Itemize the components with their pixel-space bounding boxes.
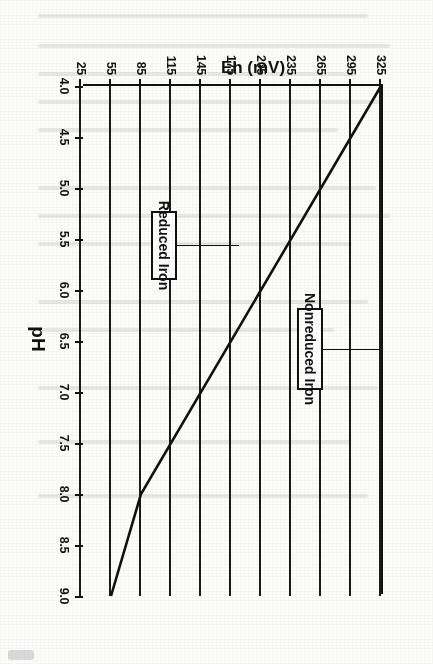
x-axis-tick-label: 8.0 (57, 486, 71, 502)
x-axis-tick-label: 7.5 (57, 435, 71, 451)
y-axis-tick (79, 79, 81, 86)
x-axis-tick-label: 9.0 (57, 588, 71, 604)
y-axis-tick-label: 25 (74, 62, 88, 75)
x-axis-tick-label: 6.5 (57, 333, 71, 349)
scan-smudge (8, 650, 34, 660)
x-axis-tick (75, 596, 83, 598)
callout-nonreduced-iron: Nonreduced Iron (297, 308, 323, 390)
y-axis-tick-label: 85 (134, 62, 148, 75)
x-axis-tick-label: 5.5 (57, 231, 71, 247)
y-axis-tick (109, 79, 111, 86)
ghost-text-line (38, 14, 368, 18)
eh-ph-boundary-line (111, 86, 381, 596)
y-axis-tick (289, 79, 291, 86)
y-axis-tick-label: 55 (104, 62, 118, 75)
callout-reduced-iron-label: Reduced Iron (156, 201, 172, 290)
y-axis-title: Eh (mV) (173, 58, 333, 78)
plot-area: 325 295 265 235 205 175 145 115 85 55 25… (83, 84, 383, 594)
x-axis-tick-label: 4.5 (57, 129, 71, 145)
y-axis-tick (229, 79, 231, 86)
y-axis-tick (319, 79, 321, 86)
callout-reduced-iron: Reduced Iron (151, 211, 177, 280)
callout-leader-line-nonreduced (323, 349, 381, 350)
y-axis-tick (169, 79, 171, 86)
y-axis-tick-label: 295 (344, 55, 358, 75)
y-axis-tick (259, 79, 261, 86)
y-axis-tick (199, 79, 201, 86)
x-axis-tick-label: 6.0 (57, 282, 71, 298)
y-axis-tick (349, 79, 351, 86)
callout-nonreduced-iron-label: Nonreduced Iron (302, 293, 318, 405)
scanned-page-background: 325 295 265 235 205 175 145 115 85 55 25… (0, 0, 433, 664)
rotated-figure: 325 295 265 235 205 175 145 115 85 55 25… (31, 32, 403, 632)
x-axis-tick-label: 8.5 (57, 537, 71, 553)
data-line-series (81, 86, 381, 596)
y-axis-tick (379, 79, 381, 86)
y-axis-tick (139, 79, 141, 86)
y-axis-tick-label: 325 (374, 55, 388, 75)
x-axis-title: pH (27, 84, 49, 594)
callout-leader-line-reduced (177, 245, 239, 246)
x-axis-tick-label: 4.0 (57, 78, 71, 94)
x-axis-tick-label: 5.0 (57, 180, 71, 196)
x-axis-tick-label: 7.0 (57, 384, 71, 400)
